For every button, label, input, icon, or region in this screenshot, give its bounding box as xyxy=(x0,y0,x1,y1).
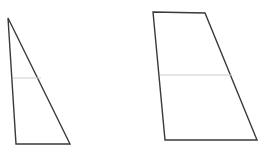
left-triangle xyxy=(8,18,70,144)
figure-canvas xyxy=(0,0,269,156)
geometry-figure-svg xyxy=(0,0,269,156)
right-quadrilateral xyxy=(153,12,257,140)
